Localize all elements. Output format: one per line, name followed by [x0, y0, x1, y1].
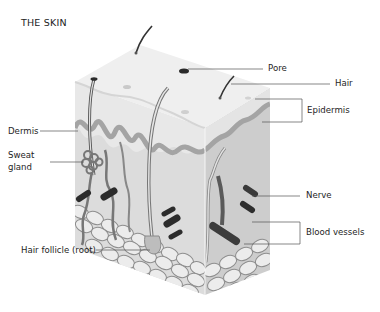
hair-base — [135, 52, 138, 55]
pore-faint — [181, 110, 189, 114]
label-epidermis: Epidermis — [307, 105, 350, 116]
pore-dark — [179, 68, 189, 73]
pore-faint — [245, 97, 251, 100]
pore-faint — [123, 85, 131, 89]
hair-base — [219, 97, 222, 100]
label-sweat-gland-line1: Sweat — [8, 150, 34, 161]
label-pore: Pore — [268, 63, 287, 74]
skin-cross-section — [0, 0, 380, 312]
label-dermis: Dermis — [8, 126, 39, 137]
label-blood-vessels: Blood vessels — [306, 227, 364, 238]
label-hair-follicle: Hair follicle (root) — [21, 245, 96, 256]
label-nerve: Nerve — [306, 190, 332, 201]
label-sweat-gland-line2: gland — [8, 162, 32, 173]
hair-opening — [91, 77, 98, 81]
label-hair: Hair — [335, 78, 353, 89]
